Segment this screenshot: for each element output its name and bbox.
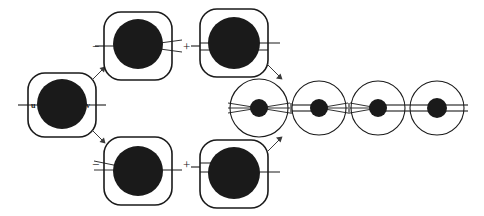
bottom-term-1-disk [113, 146, 163, 196]
top-term-2-disk [208, 17, 260, 69]
top-term-1-disk [113, 19, 163, 69]
diagram-canvas: u v − + [0, 0, 484, 216]
source-label-v: v [86, 101, 90, 110]
chain-circle-3[interactable] [350, 81, 408, 135]
source-disk [37, 79, 87, 129]
arrow-top-to-chain [267, 64, 283, 80]
source-label-u: u [31, 101, 36, 110]
source-tangle[interactable]: u v [18, 73, 106, 137]
chain-circle-1-disk [250, 99, 268, 117]
skein-diagram: u v − + [0, 0, 484, 216]
bottom-joining-sign: + [183, 157, 190, 172]
top-joining-sign: + [183, 39, 190, 54]
chain-circle-2-disk [310, 99, 328, 117]
chain-circle-1[interactable] [228, 79, 290, 137]
chain-circle-2[interactable] [292, 81, 348, 135]
bottom-term-2[interactable] [191, 140, 280, 208]
chain-circle-4-disk [427, 98, 447, 118]
bottom-term-2-disk [208, 147, 260, 199]
bottom-term-1[interactable] [94, 137, 182, 205]
arrow-bottom-to-chain [267, 137, 283, 153]
top-term-2[interactable] [191, 9, 280, 77]
top-term-1[interactable] [95, 12, 182, 80]
chain-circle-4[interactable] [408, 81, 468, 135]
chain-circle-3-disk [369, 99, 387, 117]
arrow-source-to-top [92, 67, 106, 81]
arrow-source-to-bottom [92, 130, 106, 144]
